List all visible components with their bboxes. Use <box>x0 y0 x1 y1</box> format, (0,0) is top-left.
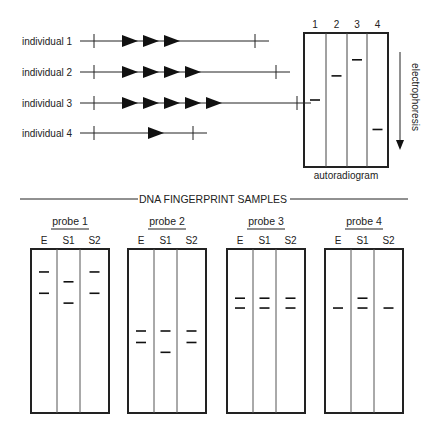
individual-row: individual 2 <box>22 65 290 79</box>
lane-label: E <box>138 235 145 246</box>
repeat-arrow <box>185 66 201 78</box>
lane-label: S2 <box>88 235 101 246</box>
individual-row: individual 1 <box>22 34 269 48</box>
repeat-arrow <box>122 35 138 47</box>
individual-label: individual 4 <box>22 128 72 139</box>
lane-label: S1 <box>62 235 75 246</box>
repeat-arrow <box>143 35 159 47</box>
section-header: DNA FINGERPRINT SAMPLES <box>20 193 408 205</box>
individual-label: individual 1 <box>22 36 72 47</box>
individual-label: individual 3 <box>22 98 72 109</box>
probe-gel-frame <box>227 249 305 413</box>
repeat-arrow <box>143 66 159 78</box>
probe-panels: probe 1ES1S2probe 2ES1S2probe 3ES1S2prob… <box>31 215 403 413</box>
lane-label: S1 <box>258 235 271 246</box>
lane-number: 3 <box>354 19 360 30</box>
repeat-arrow <box>122 97 138 109</box>
probe-label: probe 3 <box>248 215 284 227</box>
repeat-arrow <box>164 35 180 47</box>
individual-row: individual 3 <box>22 96 311 110</box>
lane-label: E <box>237 235 244 246</box>
lane-label: S1 <box>356 235 369 246</box>
lane-label: E <box>41 235 48 246</box>
repeat-arrow <box>206 97 222 109</box>
lane-label: S1 <box>159 235 172 246</box>
probe-label: probe 1 <box>52 215 88 227</box>
lane-label: S2 <box>284 235 297 246</box>
electrophoresis-arrow-head <box>396 140 404 150</box>
section-title: DNA FINGERPRINT SAMPLES <box>139 193 287 205</box>
repeat-arrow <box>122 66 138 78</box>
lane-label: S2 <box>382 235 395 246</box>
probe-gel-frame <box>325 249 403 413</box>
lane-number: 4 <box>375 19 381 30</box>
repeat-arrow <box>143 97 159 109</box>
lane-number: 1 <box>312 19 318 30</box>
repeat-arrow <box>148 127 164 139</box>
probe-panel: probe 2ES1S2 <box>128 215 206 413</box>
individuals-group: individual 1individual 2individual 3indi… <box>22 34 311 140</box>
electrophoresis-label: electrophoresis <box>410 63 421 131</box>
probe-panel: probe 1ES1S2 <box>31 215 109 413</box>
lane-number: 2 <box>334 19 340 30</box>
probe-label: probe 4 <box>346 215 382 227</box>
autoradiogram-caption: autoradiogram <box>314 170 378 181</box>
dna-fingerprint-diagram: individual 1individual 2individual 3indi… <box>0 0 427 434</box>
autoradiogram: 1234autoradiogramelectrophoresis <box>304 19 421 181</box>
individual-label: individual 2 <box>22 67 72 78</box>
repeat-arrow <box>164 66 180 78</box>
lane-label: S2 <box>185 235 198 246</box>
probe-panel: probe 3ES1S2 <box>227 215 305 413</box>
probe-label: probe 2 <box>149 215 185 227</box>
individual-row: individual 4 <box>22 126 207 140</box>
probe-panel: probe 4ES1S2 <box>325 215 403 413</box>
repeat-arrow <box>164 97 180 109</box>
repeat-arrow <box>185 97 201 109</box>
lane-label: E <box>335 235 342 246</box>
probe-gel-frame <box>31 249 109 413</box>
